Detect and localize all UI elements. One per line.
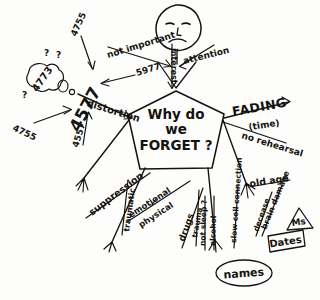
label-no-rehearsal: no rehearsal xyxy=(240,130,304,158)
label-fading-time: (time) xyxy=(248,118,280,132)
pentagon-line3: FORGET ? xyxy=(139,137,212,153)
label-slow-cell-connection: slow cell connection xyxy=(229,157,244,243)
triangle-maths-text: Ms xyxy=(291,216,307,228)
cloud-text: 4773 xyxy=(30,64,55,93)
pentagon-line1: Why do xyxy=(148,106,205,122)
arrow-label-top: 4755 xyxy=(69,11,88,38)
labels-group: Why do we FORGET ? not important interes… xyxy=(11,11,306,282)
left-arm-line xyxy=(84,120,129,178)
label-interest: interest xyxy=(169,48,178,84)
arrow-label-lower-left: 4755 xyxy=(11,123,38,143)
arrow-line-4755-left xyxy=(34,110,70,123)
mindmap-svg: Why do we FORGET ? not important interes… xyxy=(0,0,320,300)
cloud-question-2: ? xyxy=(44,48,49,58)
drawing-canvas: Why do we FORGET ? not important interes… xyxy=(0,0,320,300)
oval-names-text: names xyxy=(223,266,265,282)
label-alcohol: alcohol xyxy=(208,215,218,246)
left-foot-icon xyxy=(104,242,116,252)
face-group xyxy=(156,5,201,50)
left-eye-icon xyxy=(166,23,174,24)
label-fading: FADING xyxy=(231,95,288,119)
right-eye-icon xyxy=(182,23,190,24)
small-dot-b xyxy=(69,89,74,94)
pentagon-line2: we xyxy=(165,121,187,137)
arrow-label-upper-right: 5977 xyxy=(135,61,162,78)
cloud-question-1: ? xyxy=(56,50,61,60)
arrowhead-4755-left xyxy=(63,106,72,114)
label-not-important: not important xyxy=(106,29,177,59)
arrow-line-4755-top xyxy=(81,36,92,68)
nose-icon xyxy=(177,28,181,36)
cloud-question-3: ? xyxy=(22,90,27,100)
arrow-line-5977 xyxy=(102,75,135,83)
left-hand-icon xyxy=(76,178,88,192)
